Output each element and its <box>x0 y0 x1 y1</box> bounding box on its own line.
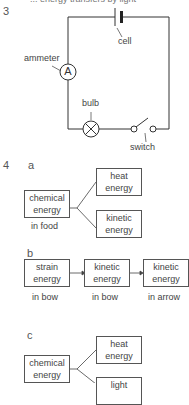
4c-chemical-energy-box: chemical energy <box>24 355 70 383</box>
cell-symbol <box>115 8 123 37</box>
box-line-2: energy <box>105 350 133 362</box>
bulb-symbol <box>83 112 99 137</box>
box-line-2: energy <box>33 369 61 381</box>
4b-caption-3: in arrow <box>148 292 180 302</box>
box-line-1: chemical <box>29 192 65 204</box>
box-line-1: kinetic <box>94 261 120 273</box>
4a-chemical-energy-box: chemical energy <box>24 190 70 218</box>
box-line-1: heat <box>110 170 128 182</box>
4c-light-energy-box: light <box>96 377 142 405</box>
4a-kinetic-energy-box: kinetic energy <box>96 210 142 238</box>
box-line-1: kinetic <box>153 261 179 273</box>
4b-caption-1: in bow <box>32 292 58 302</box>
4b-kinetic-energy-box-2: kinetic energy <box>143 259 189 287</box>
4a-source-caption: in food <box>31 221 58 231</box>
4b-strain-energy-box: strain energy <box>24 259 70 287</box>
4b-caption-2: in bow <box>92 292 118 302</box>
box-line-1: heat <box>110 338 128 350</box>
part-b-letter: b <box>27 247 33 259</box>
box-line-2: energy <box>93 273 121 285</box>
switch-symbol <box>131 118 156 142</box>
ammeter-symbol-letter: A <box>62 65 74 77</box>
box-line-2: energy <box>105 182 133 194</box>
question-4-number: 4 <box>3 159 9 171</box>
box-line-2: energy <box>152 273 180 285</box>
box-line-1: light <box>111 379 128 391</box>
part-c-letter: c <box>27 329 33 341</box>
ammeter-label: ammeter <box>24 53 60 63</box>
4a-heat-energy-box: heat energy <box>96 168 142 196</box>
part-a-letter: a <box>28 159 34 171</box>
box-line-1: strain <box>36 261 58 273</box>
4b-kinetic-energy-box-1: kinetic energy <box>84 259 130 287</box>
box-line-1: chemical <box>29 357 65 369</box>
bulb-label: bulb <box>82 98 99 108</box>
4c-heat-energy-box: heat energy <box>96 336 142 364</box>
box-line-1: kinetic <box>106 212 132 224</box>
box-line-2: energy <box>105 224 133 236</box>
cell-label: cell <box>118 36 132 46</box>
box-line-2: energy <box>33 204 61 216</box>
switch-label: switch <box>130 142 155 152</box>
box-line-2: energy <box>33 273 61 285</box>
